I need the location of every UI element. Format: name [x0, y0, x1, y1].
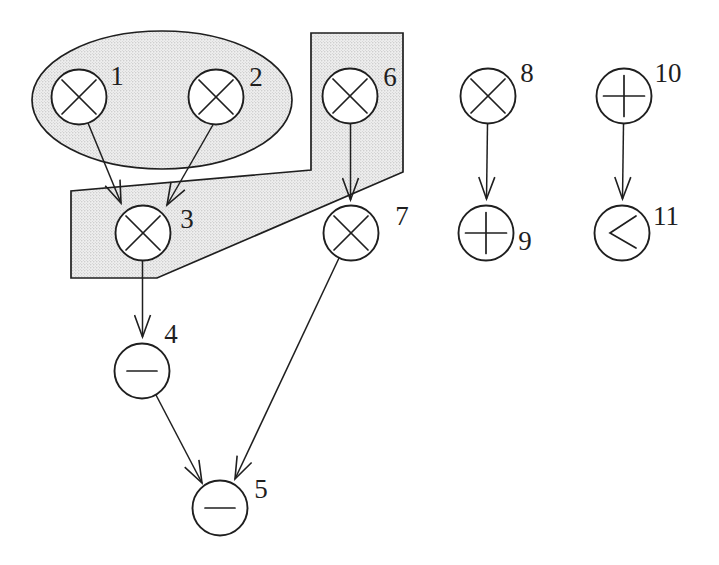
- node-8-label: 8: [520, 58, 534, 88]
- edge-10-to-11: [623, 124, 624, 199]
- node-10-label: 10: [655, 58, 682, 88]
- graph-canvas: 1234567891011: [0, 0, 719, 565]
- node-11-label: 11: [653, 201, 679, 231]
- node-4-label: 4: [164, 319, 178, 349]
- node-7-label: 7: [395, 201, 409, 231]
- node-1-label: 1: [110, 61, 124, 91]
- node-6-label: 6: [383, 62, 397, 92]
- node-2-label: 2: [249, 62, 263, 92]
- node-9-label: 9: [518, 226, 532, 256]
- node-3-label: 3: [180, 204, 194, 234]
- node-11-circle: [595, 206, 650, 261]
- node-5-label: 5: [254, 474, 268, 504]
- edge-8-to-9: [487, 124, 488, 199]
- dataflow-graph-figure: 1234567891011: [0, 0, 719, 565]
